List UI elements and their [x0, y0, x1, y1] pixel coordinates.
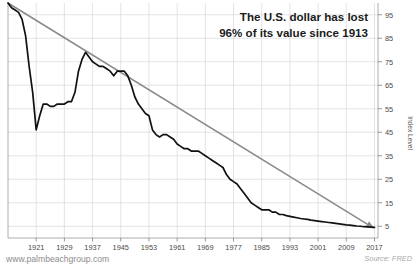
y-tick-label-5: 5 [385, 222, 389, 231]
chart-title-line-2: 96% of its value since 1913 [219, 26, 368, 39]
chart-container: 5152535455565758595 19211929193719451953… [0, 0, 419, 266]
y-axis-title: Index Level [407, 116, 414, 150]
x-tick-label-1953: 1953 [141, 243, 157, 252]
y-tick-label-15: 15 [385, 199, 393, 208]
y-tick-label-65: 65 [385, 81, 393, 90]
x-tick-label-1977: 1977 [225, 243, 241, 252]
x-tick-label-2001: 2001 [310, 243, 326, 252]
x-tick-label-2017: 2017 [366, 243, 382, 252]
watermark-url: www.palmbeachgroup.com [5, 254, 109, 264]
x-tick-label-1937: 1937 [84, 243, 100, 252]
y-tick-label-45: 45 [385, 128, 393, 137]
x-tick-label-1961: 1961 [169, 243, 185, 252]
y-tick-label-25: 25 [385, 175, 393, 184]
y-tick-label-55: 55 [385, 105, 393, 114]
chart-title-line-1: The U.S. dollar has lost [240, 10, 368, 23]
x-tick-label-1945: 1945 [113, 243, 129, 252]
x-tick-label-1969: 1969 [197, 243, 213, 252]
x-tick-label-1929: 1929 [56, 243, 72, 252]
x-tick-label-2009: 2009 [338, 243, 354, 252]
x-tick-label-1993: 1993 [282, 243, 298, 252]
y-tick-label-95: 95 [385, 11, 393, 20]
y-tick-label-35: 35 [385, 152, 393, 161]
y-tick-label-75: 75 [385, 58, 393, 67]
x-tick-label-1921: 1921 [28, 243, 44, 252]
source-label: Source: FRED [364, 254, 412, 263]
y-tick-label-85: 85 [385, 34, 393, 43]
dollar-purchasing-power-chart: 5152535455565758595 19211929193719451953… [0, 0, 419, 266]
x-tick-label-1985: 1985 [253, 243, 269, 252]
